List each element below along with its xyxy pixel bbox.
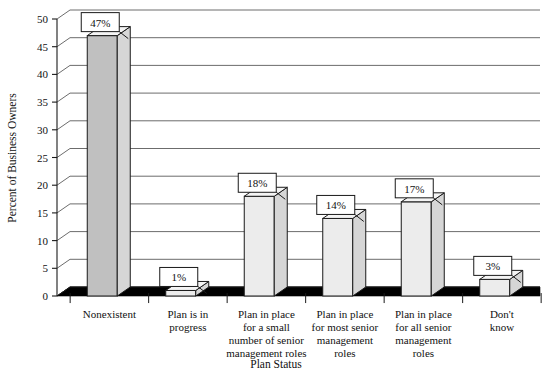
y-axis-tick-label: 25 <box>37 152 49 164</box>
bar-front-face <box>244 196 274 296</box>
bar-front-face <box>323 218 353 296</box>
chart-floor <box>57 287 540 296</box>
y-axis-tick-label: 20 <box>37 179 49 191</box>
value-label: 17% <box>404 183 424 195</box>
y-axis-tick-label: 15 <box>37 207 49 219</box>
bar-front-face <box>401 202 431 296</box>
bar-front-face <box>480 279 510 296</box>
y-axis-tick-label: 35 <box>37 96 49 108</box>
category-label-line: management <box>395 334 451 346</box>
bar-side-face <box>353 209 366 296</box>
category-label-line: for all senior <box>395 321 452 333</box>
category-label: Don'tknow <box>490 308 515 333</box>
y-axis-tick-label: 10 <box>37 235 49 247</box>
category-label-line: progress <box>169 321 206 333</box>
category-label-line: Plan in place <box>238 308 295 320</box>
bar-column <box>401 193 444 296</box>
bar-front-face <box>166 290 196 296</box>
bar-column <box>87 27 130 296</box>
category-label-line: Nonexistent <box>83 308 136 320</box>
chart-canvas: 05101520253035404550 47%1%18%14%17%3% No… <box>0 0 552 379</box>
bar-chart-figure: 05101520253035404550 47%1%18%14%17%3% No… <box>0 0 552 379</box>
y-axis-title: Percent of Business Owners <box>6 93 18 223</box>
bar-front-face <box>87 36 117 296</box>
category-label-line: management <box>317 334 373 346</box>
category-label-line: Plan in place <box>316 308 373 320</box>
y-axis-tick-label: 45 <box>37 41 49 53</box>
y-axis-tick-label: 0 <box>43 290 49 302</box>
value-label: 18% <box>247 177 267 189</box>
category-label-line: for most senior <box>312 321 379 333</box>
value-label: 1% <box>171 271 186 283</box>
x-axis-title: Plan Status <box>250 358 302 370</box>
y-axis-tick-label: 5 <box>43 262 49 274</box>
category-label-line: roles <box>334 347 355 359</box>
value-label: 47% <box>90 17 110 29</box>
bar-column <box>244 187 287 296</box>
bar-side-face <box>431 193 444 296</box>
category-label-line: know <box>490 321 515 333</box>
category-label: Plan in placefor a smallnumber of senior… <box>226 308 306 359</box>
category-label-line: Don't <box>490 308 514 320</box>
bar-side-face <box>274 187 287 296</box>
category-label-line: number of senior <box>229 334 304 346</box>
floor-plane <box>57 287 540 296</box>
category-label: Nonexistent <box>83 308 136 320</box>
category-label-line: roles <box>413 347 434 359</box>
y-axis-tick-label: 40 <box>37 68 49 80</box>
bar-column <box>323 209 366 296</box>
category-label-line: Plan is in <box>167 308 208 320</box>
bar-side-face <box>117 27 130 296</box>
category-label-line: Plan in place <box>395 308 452 320</box>
y-axis-tick-label: 30 <box>37 124 49 136</box>
value-label: 3% <box>485 260 500 272</box>
category-label-line: for a small <box>243 321 290 333</box>
value-label: 14% <box>326 199 346 211</box>
y-axis-tick-label: 50 <box>37 13 49 25</box>
category-label: Plan is inprogress <box>167 308 208 333</box>
